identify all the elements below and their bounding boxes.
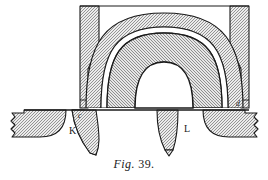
- caption-prefix: Fig.: [114, 157, 135, 171]
- figure-drawing: c d K L: [0, 0, 268, 180]
- right-bracket: [203, 110, 258, 137]
- figure-container: c d K L Fig. 39.: [0, 0, 268, 180]
- left-bracket: [11, 110, 66, 137]
- label-L: L: [184, 123, 190, 134]
- hanger-L: [157, 110, 178, 156]
- label-d: d: [236, 99, 240, 108]
- figure-caption: Fig. 39.: [0, 157, 268, 172]
- label-K: K: [69, 125, 77, 136]
- caption-number: 39.: [138, 157, 154, 171]
